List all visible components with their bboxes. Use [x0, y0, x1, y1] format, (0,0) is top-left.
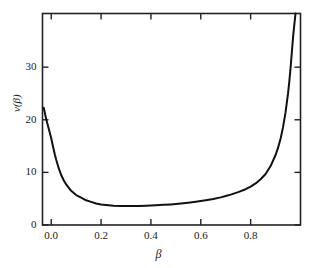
plot-area-svg [0, 0, 317, 268]
x-tick-label: 0.0 [37, 230, 65, 241]
x-tick-label: 0.8 [237, 230, 265, 241]
x-tick-label: 0.2 [87, 230, 115, 241]
y-tick-label: 0 [31, 219, 37, 230]
x-tick-label: 0.6 [187, 230, 215, 241]
y-tick-label: 20 [26, 114, 37, 125]
chart-figure: 0102030 0.00.20.40.60.8 v(β) β [0, 0, 317, 268]
y-tick-label: 10 [26, 166, 37, 177]
plot-frame [43, 14, 301, 226]
y-tick-label: 30 [26, 61, 37, 72]
y-axis-title: v(β) [10, 96, 22, 112]
x-tick-label: 0.4 [137, 230, 165, 241]
x-axis-title: β [0, 247, 317, 262]
